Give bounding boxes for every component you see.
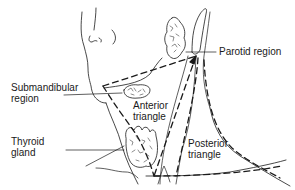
thyroid-leader-line-2: [86, 146, 124, 166]
label-thyroid-line2: gland: [11, 147, 44, 158]
ear-outline: [192, 9, 207, 54]
label-posterior-line1: Posterior: [188, 138, 228, 149]
trapezius-border: [204, 60, 280, 178]
label-submandibular-line1: Submandibular: [11, 82, 78, 93]
label-thyroid-line1: Thyroid: [11, 136, 44, 147]
face-profile-outline: [81, 12, 106, 103]
label-anterior-line1: Anterior: [133, 100, 168, 111]
chest-line-left: [96, 168, 138, 178]
parotid-gland: [165, 17, 186, 58]
parotid-texture: [170, 24, 180, 52]
mandible-boundary: [103, 56, 196, 86]
label-parotid-region: Parotid region: [219, 46, 281, 57]
label-posterior-triangle: Posterior triangle: [188, 138, 228, 160]
label-posterior-line2: triangle: [188, 149, 228, 160]
scm-back-line: [176, 58, 196, 184]
label-thyroid-gland: Thyroid gland: [11, 136, 44, 158]
label-anterior-line2: triangle: [133, 111, 168, 122]
thyroid-texture: [130, 136, 152, 162]
label-parotid-text: Parotid region: [219, 46, 281, 57]
submandibular-gland: [124, 85, 150, 98]
label-submandibular-region: Submandibular region: [11, 82, 78, 104]
label-anterior-triangle: Anterior triangle: [133, 100, 168, 122]
label-submandibular-line2: region: [11, 93, 78, 104]
submandibular-texture: [128, 88, 145, 95]
thyroid-gland: [126, 126, 158, 167]
nose-line: [94, 8, 96, 30]
clavicle-boundary: [154, 166, 282, 176]
nose-detail: [89, 30, 116, 44]
